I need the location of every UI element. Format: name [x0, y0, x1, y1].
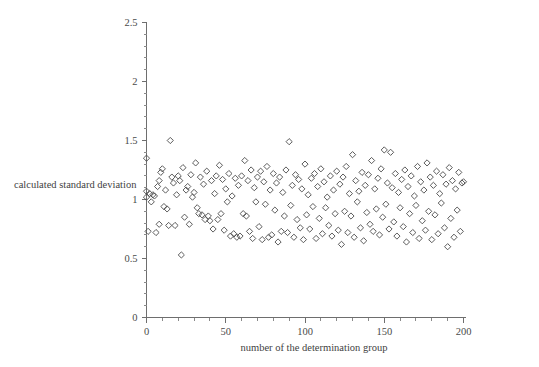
data-point-marker: [172, 222, 178, 228]
data-point-marker: [310, 203, 316, 209]
data-point-marker: [224, 199, 230, 205]
data-point-marker: [234, 234, 240, 240]
data-point-marker: [410, 229, 416, 235]
x-tick-label: 150: [376, 327, 392, 338]
data-point-marker: [262, 201, 268, 207]
data-point-marker: [334, 168, 340, 174]
data-point-marker: [281, 213, 287, 219]
data-point-marker: [327, 173, 333, 179]
data-point-marker: [326, 222, 332, 228]
data-point-marker: [162, 187, 168, 193]
data-point-marker: [381, 147, 387, 153]
data-point-marker: [221, 227, 227, 233]
data-point-marker: [443, 181, 449, 187]
data-point-marker: [318, 166, 324, 172]
figure-scatter-plot: 00.511.522.5050100150200 number of the d…: [0, 0, 539, 367]
data-point-marker: [435, 231, 441, 237]
data-point-marker: [288, 202, 294, 208]
data-markers-group: [143, 137, 466, 258]
data-point-marker: [437, 191, 443, 197]
data-point-marker: [264, 163, 270, 169]
data-point-marker: [438, 200, 444, 206]
data-point-marker: [277, 174, 283, 180]
data-point-marker: [419, 218, 425, 224]
data-point-marker: [297, 225, 303, 231]
data-point-marker: [284, 229, 290, 235]
data-point-marker: [432, 212, 438, 218]
data-point-marker: [283, 167, 289, 173]
data-point-marker: [254, 174, 260, 180]
data-point-marker: [427, 174, 433, 180]
data-point-marker: [167, 137, 173, 143]
data-point-marker: [286, 139, 292, 145]
x-tick-label: 100: [297, 327, 313, 338]
data-point-marker: [259, 237, 265, 243]
data-point-marker: [223, 186, 229, 192]
data-point-marker: [155, 183, 161, 189]
data-point-marker: [384, 180, 390, 186]
data-point-marker: [433, 168, 439, 174]
data-point-marker: [376, 232, 382, 238]
data-point-marker: [267, 187, 273, 193]
data-point-marker: [348, 213, 354, 219]
x-tick-label: 200: [456, 327, 472, 338]
data-point-marker: [253, 199, 259, 205]
data-point-marker: [335, 227, 341, 233]
data-point-marker: [261, 179, 267, 185]
data-point-marker: [452, 186, 458, 192]
data-point-marker: [305, 192, 311, 198]
data-point-marker: [232, 175, 238, 181]
data-point-marker: [418, 179, 424, 185]
data-point-marker: [402, 167, 408, 173]
data-point-marker: [188, 172, 194, 178]
y-tick-label: 0.5: [124, 253, 137, 264]
data-point-marker: [332, 211, 338, 217]
data-point-marker: [178, 252, 184, 258]
data-point-marker: [166, 222, 172, 228]
data-point-marker: [424, 160, 430, 166]
data-point-marker: [169, 174, 175, 180]
data-point-marker: [422, 227, 428, 233]
data-point-marker: [368, 157, 374, 163]
data-point-marker: [200, 181, 206, 187]
data-point-marker: [407, 211, 413, 217]
data-point-marker: [400, 224, 406, 230]
data-point-marker: [449, 178, 455, 184]
y-tick-label: 2.5: [124, 17, 137, 28]
data-point-marker: [210, 226, 216, 232]
data-point-marker: [315, 183, 321, 189]
data-point-marker: [180, 165, 186, 171]
data-point-marker: [321, 179, 327, 185]
data-point-marker: [375, 175, 381, 181]
data-point-marker: [349, 152, 355, 158]
y-tick-label: 1: [132, 194, 137, 205]
y-tick-label: 0: [132, 312, 137, 323]
data-point-marker: [256, 224, 262, 230]
data-point-marker: [456, 169, 462, 175]
y-axis-title: calculated standard deviation: [14, 179, 136, 190]
data-point-marker: [378, 166, 384, 172]
data-point-marker: [246, 228, 252, 234]
data-point-marker: [289, 182, 295, 188]
data-point-marker: [194, 205, 200, 211]
data-point-marker: [270, 170, 276, 176]
data-point-marker: [414, 163, 420, 169]
data-point-marker: [324, 194, 330, 200]
data-point-marker: [454, 207, 460, 213]
data-point-marker: [307, 226, 313, 232]
data-point-marker: [294, 216, 300, 222]
data-point-marker: [213, 173, 219, 179]
data-point-marker: [429, 237, 435, 243]
data-point-marker: [389, 185, 395, 191]
data-point-marker: [313, 235, 319, 241]
data-point-marker: [302, 161, 308, 167]
y-tick-label: 2: [132, 76, 137, 87]
data-point-marker: [226, 170, 232, 176]
data-point-marker: [372, 186, 378, 192]
data-point-marker: [237, 233, 243, 239]
data-point-marker: [204, 168, 210, 174]
data-point-marker: [394, 233, 400, 239]
data-point-marker: [156, 178, 162, 184]
data-point-marker: [405, 183, 411, 189]
data-point-marker: [391, 219, 397, 225]
